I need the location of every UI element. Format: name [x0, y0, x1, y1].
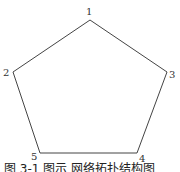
- node-label-5: 5: [31, 151, 37, 162]
- node-label-3: 3: [169, 69, 175, 80]
- node-label-2: 2: [3, 67, 9, 78]
- pentagon-diagram: 1 3 4 5 2: [0, 0, 180, 172]
- figure-caption: 图 3-1 图示 网络拓扑结构图: [4, 162, 180, 172]
- node-label-1: 1: [86, 6, 92, 17]
- pentagon-outline: [13, 20, 167, 153]
